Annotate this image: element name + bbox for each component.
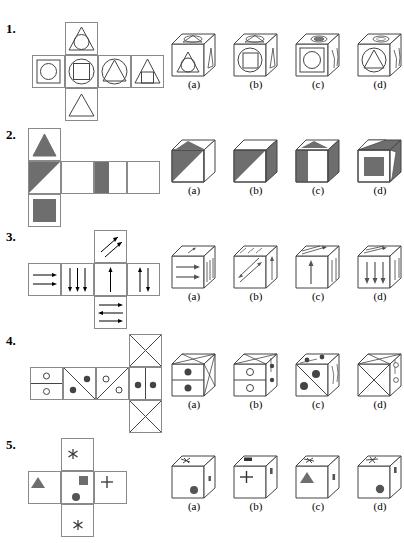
net-2	[28, 128, 168, 226]
net-1	[32, 22, 162, 120]
option-label: (c)	[294, 184, 342, 196]
net-cell-top	[28, 128, 61, 161]
net-cell-row-4	[127, 263, 160, 296]
option-c[interactable]: (c)	[294, 32, 342, 78]
net-cell-row-2	[61, 263, 94, 296]
option-label: (a)	[170, 184, 218, 196]
net-4	[30, 334, 175, 432]
option-label: (b)	[232, 398, 280, 410]
option-d[interactable]: (d)	[356, 244, 404, 290]
option-label: (a)	[170, 78, 218, 90]
net-cell-row-2	[65, 55, 98, 88]
net-cell-bottom	[61, 504, 94, 537]
option-c[interactable]: (c)	[294, 352, 342, 398]
net-cell-top	[61, 438, 94, 471]
option-c[interactable]: (c)	[294, 138, 342, 184]
net-cell-row-1	[30, 367, 63, 400]
option-label: (b)	[232, 78, 280, 90]
option-a[interactable]: (a)	[170, 352, 218, 398]
problem-1: 1.	[0, 22, 363, 117]
option-c[interactable]: (c)	[294, 244, 342, 290]
problem-5: 5.	[0, 438, 363, 538]
problem-number: 4.	[6, 334, 16, 347]
problem-number: 5.	[6, 438, 16, 451]
net-cell-row-3	[94, 471, 127, 504]
option-b[interactable]: (b)	[232, 32, 280, 78]
net-cell-row-3	[94, 263, 127, 296]
net-cell-row-2	[61, 471, 94, 504]
option-a[interactable]: (a)	[170, 138, 218, 184]
net-cell-bottom	[129, 400, 162, 433]
option-label: (c)	[294, 290, 342, 302]
net-cell-row-1	[28, 161, 61, 194]
net-cell-bottom	[94, 296, 127, 329]
option-label: (b)	[232, 290, 280, 302]
net-cell-bottom	[28, 194, 61, 227]
problem-2: 2.	[0, 128, 363, 223]
option-a[interactable]: (a)	[170, 32, 218, 78]
option-label: (a)	[170, 398, 218, 410]
option-b[interactable]: (b)	[232, 454, 280, 500]
option-b[interactable]: (b)	[232, 138, 280, 184]
net-cell-row-4	[129, 367, 162, 400]
net-cell-row-3	[96, 367, 129, 400]
option-a[interactable]: (a)	[170, 244, 218, 290]
option-a[interactable]: (a)	[170, 454, 218, 500]
option-d[interactable]: (d)	[356, 352, 404, 398]
net-3	[28, 230, 173, 328]
problem-4: 4.	[0, 334, 363, 434]
option-label: (a)	[170, 290, 218, 302]
net-cell-bottom	[65, 88, 98, 121]
net-cell-top	[94, 230, 127, 263]
option-label: (c)	[294, 78, 342, 90]
problem-number: 2.	[6, 128, 16, 141]
option-label: (a)	[170, 500, 218, 512]
problem-3: 3.	[0, 230, 363, 330]
net-cell-row-1	[28, 471, 61, 504]
net-cell-row-2	[63, 367, 96, 400]
problem-number: 3.	[6, 230, 16, 243]
net-cell-top	[129, 334, 162, 367]
option-label: (b)	[232, 184, 280, 196]
option-d[interactable]: (d)	[356, 32, 404, 78]
option-label: (c)	[294, 500, 342, 512]
net-cell-row-3	[98, 55, 131, 88]
net-cell-row-1	[28, 263, 61, 296]
option-b[interactable]: (b)	[232, 352, 280, 398]
option-d[interactable]: (d)	[356, 138, 404, 184]
net-cell-row-1	[32, 55, 65, 88]
option-b[interactable]: (b)	[232, 244, 280, 290]
net-cell-row-2	[61, 161, 94, 194]
net-cell-top	[65, 22, 98, 55]
option-label: (d)	[356, 500, 404, 512]
problem-number: 1.	[6, 22, 16, 35]
option-label: (d)	[356, 78, 404, 90]
net-cell-row-4	[131, 55, 164, 88]
option-c[interactable]: (c)	[294, 454, 342, 500]
option-label: (d)	[356, 290, 404, 302]
net-cell-row-3	[94, 161, 127, 194]
option-label: (d)	[356, 184, 404, 196]
option-label: (d)	[356, 398, 404, 410]
net-cell-row-4	[127, 161, 160, 194]
option-d[interactable]: (d)	[356, 454, 404, 500]
option-label: (c)	[294, 398, 342, 410]
net-5	[28, 438, 168, 536]
option-label: (b)	[232, 500, 280, 512]
